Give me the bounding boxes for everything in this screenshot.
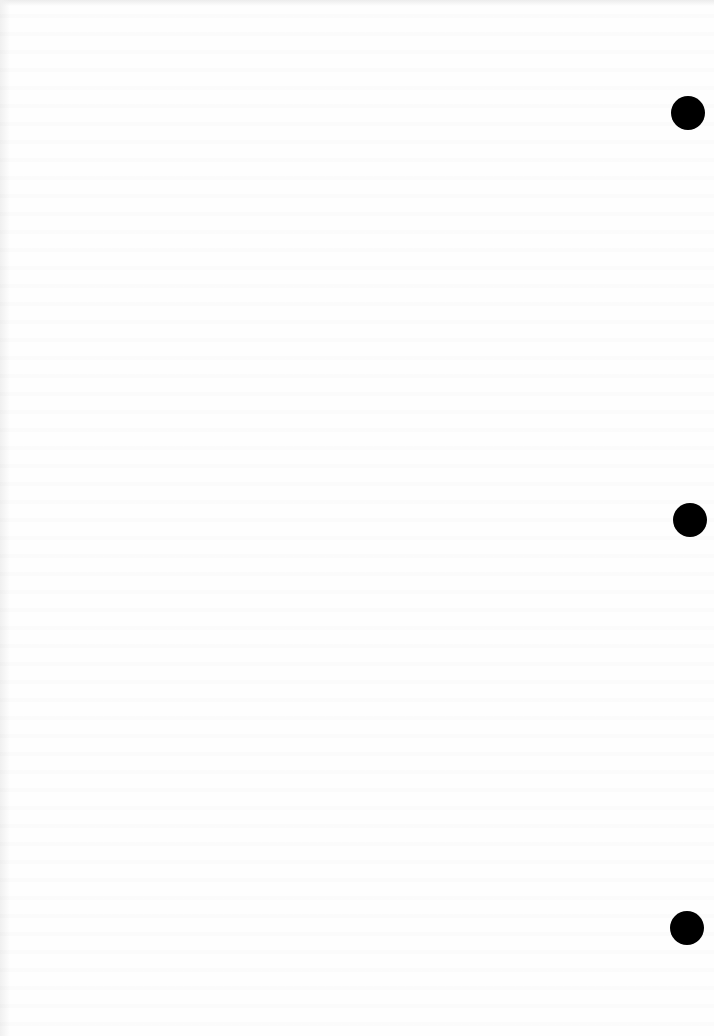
- bleed-through-texture: [0, 0, 714, 1036]
- punch-hole-middle: [673, 503, 707, 537]
- punch-hole-bottom: [670, 911, 704, 945]
- punch-hole-top: [671, 96, 705, 130]
- blank-page: [0, 0, 714, 1036]
- scan-top-edge: [0, 0, 714, 6]
- scan-left-edge: [0, 0, 10, 1036]
